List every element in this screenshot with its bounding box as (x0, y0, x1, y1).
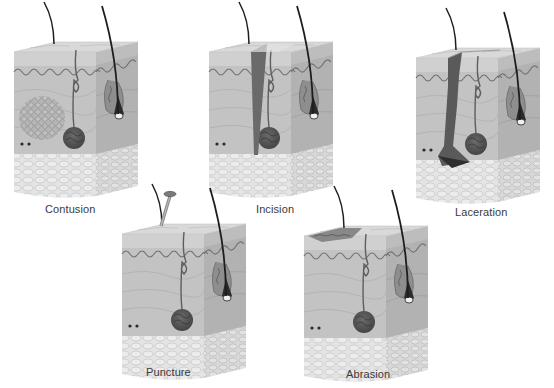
label-puncture: Puncture (146, 366, 191, 378)
label-abrasion: Abrasion (346, 368, 390, 380)
wound-types-diagram (0, 0, 554, 388)
label-contusion: Contusion (45, 203, 95, 215)
panel-abrasion (304, 186, 428, 382)
skin-block (416, 8, 540, 204)
label-incision: Incision (256, 203, 294, 215)
panel-laceration (416, 8, 540, 204)
label-laceration: Laceration (455, 206, 507, 218)
skin-block (304, 186, 428, 382)
skin-block (122, 184, 246, 380)
panel-contusion (14, 2, 138, 198)
panel-puncture (122, 184, 246, 380)
skin-block (209, 2, 333, 198)
bruise-region (19, 96, 65, 140)
panel-incision (209, 2, 333, 198)
nail-icon (161, 191, 176, 226)
